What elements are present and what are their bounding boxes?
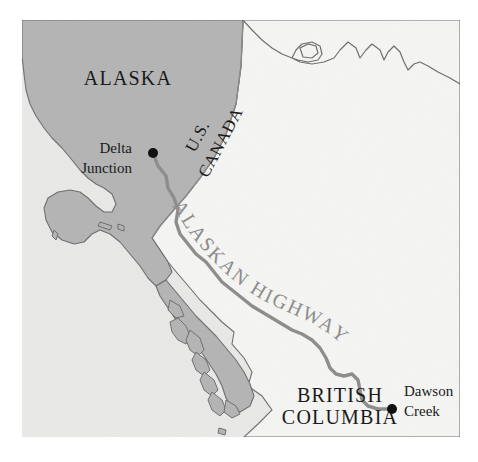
city-label-delta-junction-line1: Delta: [100, 140, 133, 156]
city-dot-delta-junction: [148, 148, 158, 158]
region-label-british-columbia-line1: BRITISH: [297, 384, 383, 406]
city-label-dawson-creek-line1: Dawson: [404, 383, 454, 399]
city-label-dawson-creek-line2: Creek: [404, 403, 440, 419]
city-dot-dawson-creek: [387, 404, 397, 414]
locator-map: ALASKA BRITISH COLUMBIA U.S. CANADA ALAS…: [0, 0, 478, 462]
map-body: ALASKA BRITISH COLUMBIA U.S. CANADA ALAS…: [22, 20, 460, 437]
map-figure: ALASKA BRITISH COLUMBIA U.S. CANADA ALAS…: [0, 0, 478, 462]
region-label-alaska: ALASKA: [84, 67, 172, 89]
region-label-british-columbia-line2: COLUMBIA: [282, 406, 398, 428]
city-label-delta-junction-line2: Junction: [81, 160, 132, 176]
